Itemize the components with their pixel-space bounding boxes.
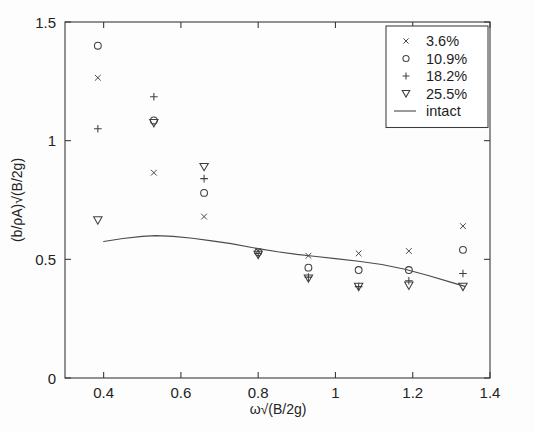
chart-legend: 3.6%10.9%18.2%25.5%intact	[386, 26, 488, 128]
marker-circle	[201, 189, 208, 196]
legend-label: 25.5%	[426, 86, 467, 102]
x-tick-label: 0.8	[248, 384, 269, 401]
x-tick-label: 0.4	[93, 384, 114, 401]
marker-cross	[406, 248, 412, 254]
x-tick-label: 1.2	[402, 384, 423, 401]
x-tick-label: 1	[331, 384, 339, 401]
marker-cross	[460, 223, 466, 229]
series-intact	[104, 236, 465, 287]
y-tick-label: 0.5	[35, 251, 56, 268]
marker-cross	[356, 251, 362, 257]
series-25-5-	[94, 120, 468, 291]
marker-plus	[200, 175, 208, 183]
marker-circle	[94, 42, 101, 49]
marker-plus	[150, 93, 158, 101]
y-tick-label: 1.5	[35, 14, 56, 31]
chart-figure: 0.40.60.811.21.400.511.5 3.6%10.9%18.2%2…	[0, 0, 535, 432]
legend-label: 18.2%	[426, 68, 467, 84]
marker-circle	[355, 267, 362, 274]
legend-label: 3.6%	[426, 33, 459, 49]
legend-label: intact	[426, 103, 461, 119]
marker-circle	[305, 264, 312, 271]
x-axis-title: ω√(B/2g)	[250, 401, 307, 417]
marker-cross	[95, 75, 101, 81]
marker-circle	[460, 246, 467, 253]
x-tick-label: 1.4	[480, 384, 501, 401]
marker-triangle-down	[200, 163, 208, 170]
marker-cross	[151, 170, 157, 176]
legend-label: 10.9%	[426, 51, 467, 67]
marker-cross	[201, 214, 207, 220]
marker-plus	[94, 125, 102, 133]
x-tick-label: 0.6	[170, 384, 191, 401]
marker-plus	[459, 270, 467, 278]
scatter-plot: 0.40.60.811.21.400.511.5 3.6%10.9%18.2%2…	[0, 0, 535, 432]
y-tick-label: 1	[48, 132, 56, 149]
y-axis-title: (b/ρA)√(B/2g)	[9, 158, 25, 242]
marker-plus	[405, 277, 413, 285]
y-tick-label: 0	[48, 370, 56, 387]
intact-line	[104, 236, 465, 287]
marker-triangle-down	[94, 217, 102, 224]
